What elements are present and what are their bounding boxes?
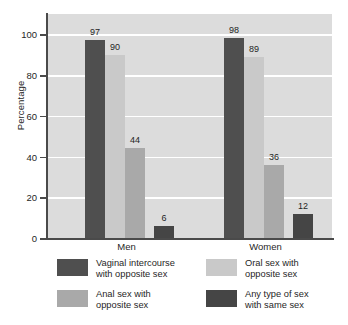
legend-swatch (206, 290, 237, 307)
bar-value-label: 90 (110, 42, 120, 52)
bar-value-label: 6 (161, 213, 166, 223)
legend-swatch (57, 290, 88, 307)
y-axis-tick (40, 157, 47, 159)
y-axis-tick (40, 238, 47, 240)
legend-label-line1: Any type of sex (245, 289, 309, 300)
legend-label-line2: opposite sex (245, 269, 299, 280)
y-axis-label: 0 (7, 233, 37, 244)
x-axis-line (46, 238, 334, 240)
legend-label: Vaginal intercoursewith opposite sex (96, 258, 175, 280)
legend-label: Oral sex withopposite sex (245, 258, 299, 280)
bar-value-label: 97 (90, 27, 100, 37)
bar (293, 214, 313, 238)
plot-area (48, 14, 332, 238)
bar (224, 38, 244, 238)
legend-item[interactable]: Vaginal intercoursewith opposite sex (57, 258, 196, 289)
bar-value-label: 44 (130, 135, 140, 145)
bar (85, 40, 105, 238)
legend-swatch (206, 259, 237, 276)
bar-value-label: 12 (298, 201, 308, 211)
legend-item[interactable]: Any type of sexwith same sex (206, 289, 345, 320)
bar-value-label: 89 (249, 44, 259, 54)
bar-value-label: 36 (269, 152, 279, 162)
y-axis-tick (40, 34, 47, 36)
bar-chart: Percentage 020406080100 9790446Men988936… (0, 0, 348, 325)
legend-label-line2: opposite sex (96, 300, 151, 311)
y-axis-tick (40, 75, 47, 77)
y-axis-label: 80 (7, 70, 37, 81)
chart-legend: Vaginal intercoursewith opposite sexOral… (57, 258, 345, 320)
legend-label-line1: Anal sex with (96, 289, 151, 300)
bar (264, 165, 284, 238)
x-axis-group-label: Women (249, 241, 282, 252)
y-axis-label: 20 (7, 192, 37, 203)
bar (244, 57, 264, 238)
y-axis-label: 40 (7, 151, 37, 162)
y-axis-label: 100 (7, 29, 37, 40)
legend-label-line2: with same sex (245, 300, 309, 311)
legend-label-line2: with opposite sex (96, 269, 175, 280)
legend-label: Anal sex withopposite sex (96, 289, 151, 311)
bar-value-label: 98 (229, 25, 239, 35)
y-axis-label: 60 (7, 110, 37, 121)
legend-label: Any type of sexwith same sex (245, 289, 309, 311)
y-axis-tick (40, 197, 47, 199)
legend-swatch (57, 259, 88, 276)
y-axis-tick (40, 116, 47, 118)
legend-item[interactable]: Anal sex withopposite sex (57, 289, 196, 320)
bar (125, 148, 145, 238)
y-axis-title: Percentage (15, 46, 26, 166)
legend-item[interactable]: Oral sex withopposite sex (206, 258, 345, 289)
x-axis-group-label: Men (117, 241, 135, 252)
legend-label-line1: Vaginal intercourse (96, 258, 175, 269)
bar (154, 226, 174, 238)
legend-label-line1: Oral sex with (245, 258, 299, 269)
bar (105, 55, 125, 238)
